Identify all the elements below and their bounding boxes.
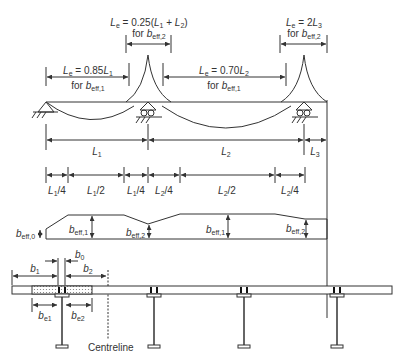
beff2-label: beff,2 [126,228,145,239]
sub-label: L2/4 [155,186,173,197]
le-span1-label: Le = 0.85L1 [63,66,113,77]
centreline-label: Centreline [88,343,134,353]
roller-support-middle [136,102,162,123]
be2-label: be2 [71,311,84,322]
beff0-label: beff,0 [16,229,35,240]
beff1-label: beff,1 [69,225,88,236]
beff1-label: beff,1 [206,225,225,236]
le-end-label: Le = 2L3 for beff,2 [286,18,322,40]
span-label-L1: L1 [92,147,101,158]
girder-3 [237,287,251,348]
sub-label: L1/2 [87,186,105,197]
pin-support-left [32,102,58,118]
hogging-peak-middle [126,55,171,102]
roller-support-end [292,102,318,123]
span-label-L2: L2 [221,147,230,158]
sub-label: L1/4 [48,186,66,197]
beff2-label: beff,2 [286,224,305,235]
b2-label: b2 [83,264,92,275]
sub-label: L2/4 [281,186,299,197]
b0-label: b0 [75,250,84,261]
sub-label: L1/4 [127,186,145,197]
span-label-L3: L3 [310,147,319,158]
le-span2-label: Le = 0.70L2 [199,66,249,77]
le-span2-for-label: for beff,1 [207,81,241,92]
sagging-curve-span2 [162,106,291,128]
le-span1-for-label: for beff,1 [71,81,105,92]
effective-width-diagram [0,0,404,361]
le-middle-label: Le = 0.25(L1 + L2) for beff,2 [110,18,187,40]
sub-label: L2/2 [218,186,236,197]
subdivision-dimensions [46,167,305,183]
sagging-curve-span1 [46,102,134,120]
girder-4 [330,287,344,348]
b1-label: b1 [30,264,39,275]
hogging-peak-end [281,55,327,102]
span-dimensions [46,100,327,318]
girder-2 [147,287,161,348]
girder-1 [55,287,69,348]
effective-slab-region [32,286,92,294]
be1-label: be1 [38,311,51,322]
effective-width-profile [46,214,327,239]
